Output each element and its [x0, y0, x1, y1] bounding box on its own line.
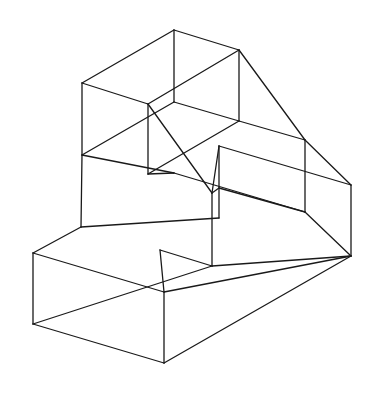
- edge-M-O: [219, 188, 305, 212]
- edge-H-E: [239, 121, 305, 140]
- edge-W-S: [33, 227, 81, 253]
- edge-C-D: [148, 50, 239, 104]
- edge-B-D: [82, 83, 148, 104]
- edge-A-B: [82, 30, 174, 83]
- edge-W-P: [81, 218, 219, 227]
- edge-F-J: [82, 155, 174, 173]
- edge-X-Q: [160, 250, 212, 266]
- edge-F-G: [82, 102, 174, 155]
- edge-O-R: [305, 212, 351, 256]
- edge-C-E: [239, 50, 305, 140]
- edge-S-U: [33, 253, 164, 292]
- wireframe-drawing: [0, 0, 377, 403]
- edge-Q-R: [212, 256, 351, 266]
- edge-F-W: [81, 155, 82, 227]
- edge-U-R: [164, 256, 351, 292]
- wireframe-solid-diagram: [0, 0, 377, 403]
- edge-D-L: [148, 104, 212, 193]
- edge-T-Q: [33, 266, 212, 324]
- edge-T-V: [33, 324, 164, 363]
- edge-I-J: [148, 173, 174, 174]
- edge-G-H: [174, 102, 239, 121]
- edge-X-U: [160, 250, 164, 292]
- edge-A-C: [174, 30, 239, 50]
